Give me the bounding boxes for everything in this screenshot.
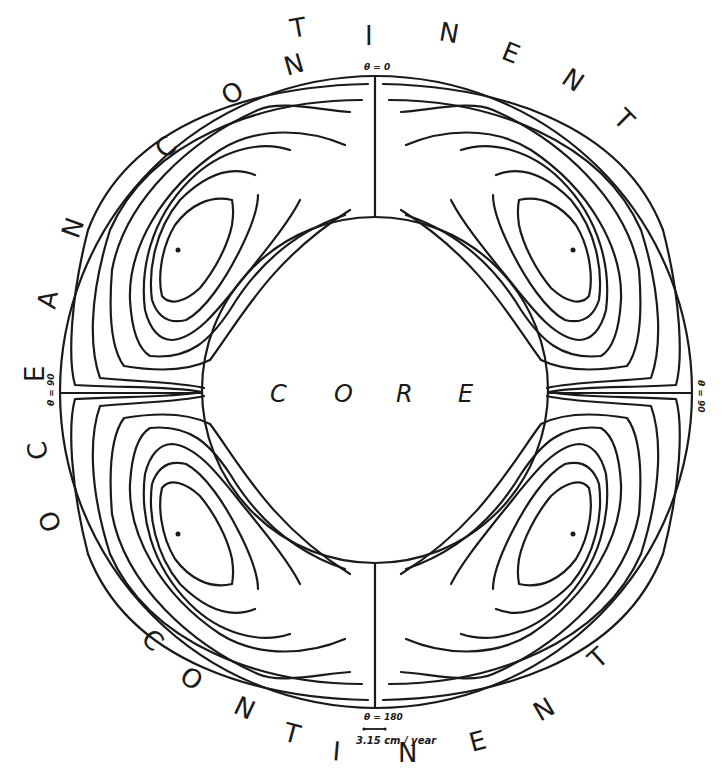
convection-diagram: C O N I N E N T T N A E C O C O N T I N … — [0, 0, 725, 776]
angle-label-top: θ = 0 — [364, 62, 390, 72]
svg-text:O: O — [175, 660, 209, 696]
svg-text:A: A — [31, 288, 64, 311]
cell-lower-right — [383, 392, 680, 700]
core-label: C O R E — [270, 380, 474, 408]
svg-text:E: E — [458, 380, 474, 408]
svg-text:N: N — [55, 214, 90, 243]
cell-upper-right — [383, 84, 680, 392]
svg-text:E: E — [498, 36, 524, 70]
svg-text:N: N — [437, 16, 461, 49]
svg-text:N: N — [528, 691, 560, 727]
svg-text:E: E — [466, 725, 490, 758]
angle-label-left: θ = 90 — [46, 373, 56, 406]
svg-text:O: O — [334, 380, 353, 408]
svg-text:3.15 cm / year: 3.15 cm / year — [356, 735, 437, 746]
svg-text:I: I — [331, 736, 341, 767]
label-top-continent: C O N I N E N T — [149, 16, 640, 164]
svg-text:N: N — [280, 48, 307, 82]
svg-text:N: N — [557, 62, 590, 98]
svg-text:T: T — [287, 12, 309, 44]
svg-text:I: I — [365, 21, 373, 51]
cell-upper-left — [71, 84, 368, 392]
svg-text:C: C — [21, 439, 54, 462]
angle-label-bottom: θ = 180 — [364, 712, 403, 722]
svg-text:T: T — [279, 717, 303, 750]
svg-text:R: R — [396, 380, 413, 408]
svg-text:N: N — [229, 690, 259, 725]
svg-text:C: C — [149, 130, 183, 164]
label-top-continent-t: T — [287, 12, 309, 44]
core-boundary-circle — [202, 217, 548, 563]
svg-text:O: O — [32, 507, 67, 536]
angle-label-right: θ = 90 — [696, 380, 706, 413]
cell-lower-left — [71, 392, 368, 700]
scale-bar: 3.15 cm / year — [356, 727, 437, 746]
svg-text:T: T — [607, 102, 640, 135]
svg-text:C: C — [270, 380, 287, 408]
